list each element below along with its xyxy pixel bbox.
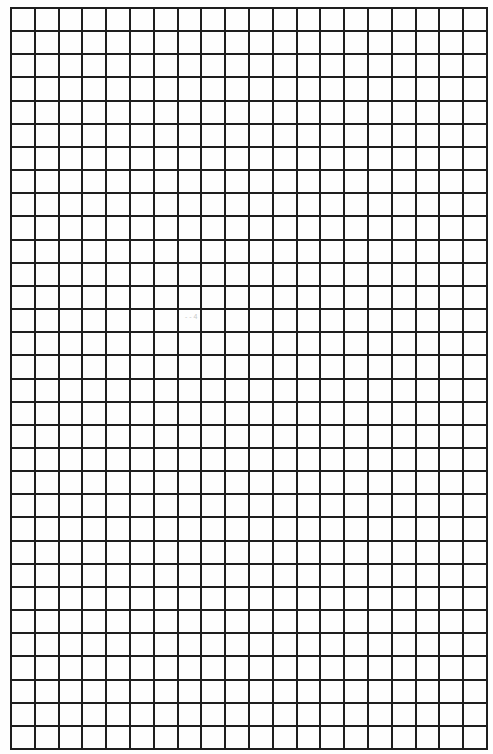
grid-horizontal-line xyxy=(10,285,488,287)
grid-horizontal-line xyxy=(10,215,488,217)
grid-horizontal-line xyxy=(10,192,488,194)
grid-horizontal-line xyxy=(10,146,488,148)
grid-horizontal-line xyxy=(10,30,488,32)
grid-horizontal-line xyxy=(10,7,488,9)
grid-horizontal-line xyxy=(10,100,488,102)
grid-horizontal-line xyxy=(10,725,488,727)
grid-horizontal-line xyxy=(10,331,488,333)
grid-horizontal-line xyxy=(10,401,488,403)
faint-mark: - - 4 xyxy=(185,313,197,320)
grid-horizontal-line xyxy=(10,424,488,426)
grid-horizontal-line xyxy=(10,679,488,681)
grid-horizontal-line xyxy=(10,123,488,125)
grid-horizontal-line xyxy=(10,76,488,78)
grid-horizontal-line xyxy=(10,540,488,542)
grid-horizontal-line xyxy=(10,609,488,611)
grid-horizontal-line xyxy=(10,493,488,495)
grid-horizontal-line xyxy=(10,53,488,55)
grid-horizontal-line xyxy=(10,586,488,588)
grid-horizontal-line xyxy=(10,563,488,565)
grid xyxy=(10,7,488,750)
grid-horizontal-line xyxy=(10,239,488,241)
grid-horizontal-line xyxy=(10,169,488,171)
grid-horizontal-line xyxy=(10,262,488,264)
grid-horizontal-line xyxy=(10,516,488,518)
grid-paper-sheet: - - 4 xyxy=(0,0,493,754)
grid-horizontal-line xyxy=(10,632,488,634)
grid-horizontal-line xyxy=(10,702,488,704)
grid-horizontal-line xyxy=(10,447,488,449)
grid-horizontal-line xyxy=(10,378,488,380)
grid-horizontal-line xyxy=(10,470,488,472)
grid-horizontal-line xyxy=(10,748,488,750)
grid-horizontal-line xyxy=(10,655,488,657)
grid-horizontal-line xyxy=(10,308,488,310)
grid-horizontal-line xyxy=(10,354,488,356)
